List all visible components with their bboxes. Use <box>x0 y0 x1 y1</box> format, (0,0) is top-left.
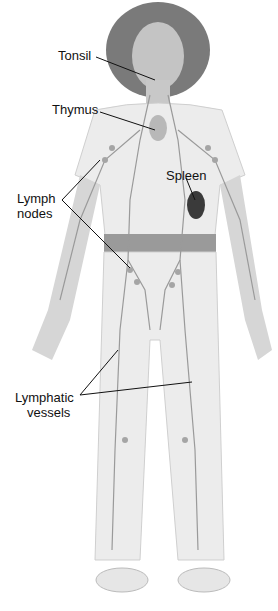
label-lymphatic-vessels-1: Lymphatic <box>15 390 74 405</box>
neck <box>146 80 170 106</box>
pants <box>95 252 224 560</box>
right-shoe <box>178 568 230 592</box>
label-lymphatic-vessels-2: vessels <box>27 405 70 420</box>
face <box>132 22 184 90</box>
label-lymph-nodes-1: Lymph <box>17 191 56 206</box>
lymphatic-system-figure <box>0 0 278 611</box>
label-thymus: Thymus <box>52 102 98 117</box>
thymus <box>149 115 167 141</box>
spleen <box>187 191 205 219</box>
left-shoe <box>96 568 148 592</box>
right-arm <box>220 175 272 360</box>
label-tonsil: Tonsil <box>58 48 91 63</box>
label-spleen: Spleen <box>166 168 206 183</box>
label-lymph-nodes-2: nodes <box>17 206 52 221</box>
belt <box>104 234 216 252</box>
